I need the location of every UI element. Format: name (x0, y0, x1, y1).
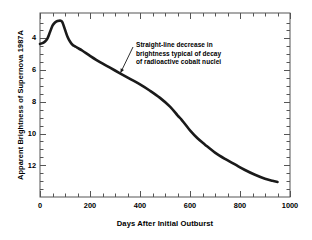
annotation-line-1: Straight-line decrease in (136, 41, 268, 50)
x-axis-title: Days After Initial Outburst (40, 219, 290, 228)
y-tick-label-6: 6 (20, 66, 36, 74)
y-tick-label-4: 4 (20, 34, 36, 42)
x-tick-label-200: 200 (75, 202, 105, 210)
x-tick-label-400: 400 (125, 202, 155, 210)
supernova-light-curve-figure: Apparent Brightness of Supernova 1987A D… (0, 0, 312, 240)
y-tick-label-12: 12 (20, 162, 36, 170)
x-tick-label-800: 800 (225, 202, 255, 210)
annotation-arrow (121, 47, 134, 73)
x-tick-label-1000: 1000 (275, 202, 305, 210)
cobalt-decay-annotation: Straight-line decrease in brightness typ… (136, 41, 268, 67)
annotation-line-2: brightness typical of decay (136, 50, 268, 59)
x-tick-label-600: 600 (175, 202, 205, 210)
x-tick-label-0: 0 (25, 202, 55, 210)
y-tick-label-10: 10 (20, 130, 36, 138)
y-tick-label-8: 8 (20, 98, 36, 106)
annotation-line-3: of radioactive cobalt nuclei (136, 58, 268, 67)
